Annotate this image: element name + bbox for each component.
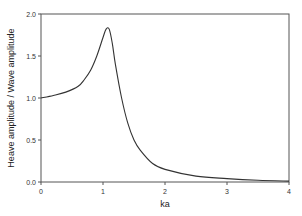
- x-tick-label: 4: [287, 188, 291, 195]
- data-line: [41, 28, 289, 181]
- y-tick-label: 0.0: [26, 179, 36, 186]
- x-tick-label: 1: [101, 188, 105, 195]
- chart: 0.00.51.01.52.0 01234 ka Heave amplitude…: [0, 0, 302, 216]
- y-tick-label: 1.0: [26, 95, 36, 102]
- x-axis: 01234: [39, 182, 291, 195]
- plot-frame: [41, 14, 289, 182]
- x-tick-label: 0: [39, 188, 43, 195]
- x-tick-label: 2: [163, 188, 167, 195]
- y-tick-label: 2.0: [26, 11, 36, 18]
- y-tick-label: 1.5: [26, 53, 36, 60]
- x-tick-label: 3: [225, 188, 229, 195]
- x-axis-label: ka: [160, 199, 170, 209]
- y-axis: 0.00.51.01.52.0: [26, 11, 41, 186]
- y-axis-label: Heave amplitude / Wave amplitude: [6, 28, 16, 167]
- y-tick-label: 0.5: [26, 137, 36, 144]
